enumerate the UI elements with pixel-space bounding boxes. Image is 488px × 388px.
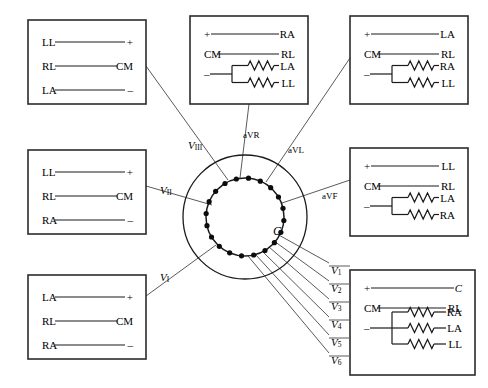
lead-iii-box[interactable]: LL+RLCMLA–: [28, 20, 146, 104]
lead-v-precordial-box[interactable]: +CCMRL–RALALL: [350, 270, 475, 375]
terminal-label-left: RL: [42, 60, 56, 72]
lead-label-v1-precordial: V1: [331, 264, 341, 277]
lead-label-v3: VIII: [188, 139, 202, 152]
terminal-label-left: LA: [42, 84, 57, 96]
lead-label-v5-precordial: V5: [331, 336, 341, 349]
connector-lead-i: [146, 245, 216, 296]
switch-contact-dot[interactable]: [262, 248, 267, 253]
switch-contact-dot[interactable]: [246, 176, 251, 181]
terminal-label-left: +: [364, 282, 370, 294]
terminal-label-left: –: [203, 68, 210, 80]
rotary-switch-group[interactable]: C: [183, 155, 307, 279]
switch-contact-dot[interactable]: [222, 181, 227, 186]
lead-label-v3-precordial: V3: [331, 300, 341, 313]
terminal-label-right: –: [127, 339, 134, 351]
terminal-label-right: RA: [280, 28, 295, 40]
terminal-label-right: RA: [440, 60, 455, 72]
switch-contact-dot[interactable]: [227, 250, 232, 255]
terminal-label-left: +: [364, 160, 370, 172]
terminal-label-right: CM: [116, 190, 133, 202]
switch-contact-dot[interactable]: [213, 189, 218, 194]
terminal-label-right: C: [455, 282, 463, 294]
terminal-label-left: LA: [42, 291, 57, 303]
connector-v4: [263, 252, 329, 317]
switch-contact-dot[interactable]: [272, 240, 277, 245]
terminal-label-left: LL: [42, 36, 56, 48]
terminal-label-right: RL: [441, 180, 455, 192]
terminal-label-right: LA: [447, 322, 462, 334]
lead-i-box[interactable]: LA+RLCMRA–: [28, 275, 146, 359]
lead-label-v2: VII: [160, 184, 172, 197]
lead-avr-box[interactable]: +RACMRL–LALL: [190, 16, 308, 104]
connector-avr: [240, 104, 249, 178]
switch-contact-dot[interactable]: [207, 199, 212, 204]
switch-outer-ring[interactable]: [183, 155, 307, 279]
terminal-label-right: LA: [440, 28, 455, 40]
terminal-label-left: –: [363, 68, 370, 80]
terminal-label-right: –: [127, 84, 134, 96]
terminal-label-right: LA: [440, 192, 455, 204]
lead-label-avf: aVF: [322, 191, 338, 201]
diagram-svg: C LL+RLCMLA–+RACMRL–LALL+LACMRL–RALLLL+R…: [0, 0, 488, 388]
terminal-label-right: RA: [447, 306, 462, 318]
terminal-label-right: LL: [282, 77, 296, 89]
terminal-label-right: LL: [442, 160, 456, 172]
terminal-label-left: RL: [42, 190, 56, 202]
switch-contact-dot[interactable]: [204, 223, 209, 228]
switch-contact-dot[interactable]: [258, 179, 263, 184]
switch-contact-dot[interactable]: [280, 206, 285, 211]
terminal-label-right: RL: [281, 48, 295, 60]
terminal-label-left: –: [363, 322, 370, 334]
lead-ii-box[interactable]: LL+RLCMRA–: [28, 150, 146, 234]
switch-contact-dot[interactable]: [268, 185, 273, 190]
terminal-label-right: CM: [116, 315, 133, 327]
switch-contact-dot[interactable]: [251, 252, 256, 257]
terminal-label-right: RL: [441, 48, 455, 60]
switch-contact-dot[interactable]: [217, 244, 222, 249]
connector-avf: [282, 180, 350, 203]
terminal-label-right: LL: [449, 338, 463, 350]
switch-contact-dot[interactable]: [204, 211, 209, 216]
switch-center-label: C: [273, 224, 282, 238]
lead-box-group: LL+RLCMLA–+RACMRL–LALL+LACMRL–RALLLL+RLC…: [28, 16, 475, 375]
terminal-label-right: +: [127, 291, 133, 303]
terminal-label-left: –: [363, 200, 370, 212]
switch-contact-dot[interactable]: [239, 253, 244, 258]
switch-contact-dot[interactable]: [281, 218, 286, 223]
diagram-canvas: C LL+RLCMLA–+RACMRL–LALL+LACMRL–RALLLL+R…: [0, 0, 488, 388]
lead-label-v2-precordial: V2: [331, 282, 341, 295]
terminal-label-left: +: [364, 28, 370, 40]
terminal-label-right: RA: [440, 209, 455, 221]
switch-inner-ring[interactable]: [206, 178, 284, 256]
lead-label-avr: aVR: [243, 130, 260, 140]
lead-label-avl: aVL: [288, 145, 304, 155]
connector-lead-ii: [146, 186, 212, 205]
terminal-label-right: +: [127, 36, 133, 48]
lead-label-v6-precordial: V6: [331, 354, 341, 367]
switch-contact-dot[interactable]: [209, 234, 214, 239]
terminal-label-right: +: [127, 166, 133, 178]
terminal-label-left: LL: [42, 166, 56, 178]
lead-label-v1: VI: [160, 271, 169, 284]
terminal-label-right: –: [127, 214, 134, 226]
lead-label-v4-precordial: V4: [331, 318, 341, 331]
terminal-label-right: LL: [442, 77, 456, 89]
switch-contact-dot[interactable]: [234, 176, 239, 181]
terminal-label-right: CM: [116, 60, 133, 72]
terminal-label-right: LA: [280, 60, 295, 72]
terminal-label-left: RL: [42, 315, 56, 327]
terminal-label-left: +: [204, 28, 210, 40]
lead-avf-box[interactable]: +LLCMRL–LARA: [350, 148, 468, 236]
lead-avl-box[interactable]: +LACMRL–RALL: [350, 16, 468, 104]
switch-contact-dot[interactable]: [276, 194, 281, 199]
